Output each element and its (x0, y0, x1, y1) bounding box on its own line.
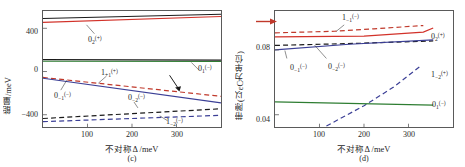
curve-c-1-minus2-minus (43, 115, 221, 121)
panel-d-ytick-008: 0.08 (238, 43, 270, 52)
panel-c-label-1-minus2-minus: 1−2(−) (166, 117, 183, 127)
curve-c-black-upper (43, 14, 221, 18)
leader-c-0-minus2-minus (134, 102, 138, 108)
panel-c-xtick-200: 200 (119, 130, 145, 139)
panel-d-xtick-200: 200 (351, 130, 377, 139)
panel-c-label-1-plus1-plus: 1+1(+) (101, 68, 118, 78)
curve-d-1-minus2-plus (326, 66, 420, 126)
panel-c-label-0-1-minus: 01(−) (198, 64, 212, 74)
panel-c-y-axis-label: 能量/meV (2, 36, 14, 114)
panel-d-label-0-minus1-minus: 0−1(−) (290, 63, 307, 73)
curve-d-1-minus1-minus (275, 26, 423, 33)
panel-d-label-0-1-minus: 01(−) (432, 100, 446, 110)
panel-c-label-0-2-plus: 02(+) (88, 35, 102, 45)
curve-c-0-2-plus (43, 16, 221, 22)
panel-c-plot-area (42, 10, 222, 128)
panel-c-xtick-100: 100 (74, 130, 100, 139)
curve-d-0-minus1-minus (275, 40, 433, 50)
panel-c-ytick-0: 0 (12, 65, 38, 74)
panel-c-ytick-400: 400 (12, 27, 38, 36)
panel-d-xtick-300: 300 (396, 130, 422, 139)
arrow-marker-c (170, 75, 181, 91)
panel-c-label-0-minus2-minus: 0−2(−) (128, 93, 145, 103)
panel-c: 能量/meV 400 0 −400 (0, 0, 232, 167)
leader-d-0-minus2-minus (315, 45, 327, 58)
panel-d-label-0-minus2-minus: 0−2(−) (328, 62, 345, 72)
panel-d-label-1-minus1-minus: 1−1(−) (342, 13, 359, 23)
panel-c-ytick-minus400: −400 (8, 110, 38, 119)
curve-c-0-minus2-minus (43, 109, 221, 119)
panel-d-y-axis-label: 带隙(以εC为单位) (234, 28, 246, 120)
panel-c-caption: (c) (102, 154, 162, 163)
panel-d-label-1-minus2-plus: 1−2(+) (431, 70, 448, 80)
panel-d-label-0-2-plus: 02(+) (431, 32, 445, 42)
panel-d-ytick-004: 0.04 (238, 115, 270, 124)
panel-c-x-axis-label: 不对称Δ /meV (62, 142, 202, 154)
curve-d-0-1-minus (275, 102, 433, 105)
panel-c-xtick-300: 300 (164, 130, 190, 139)
leader-c-0-2-plus (87, 25, 95, 34)
leader-d-0-minus1-minus (285, 51, 287, 59)
panel-c-curves (43, 11, 221, 128)
panel-d-xtick-100: 100 (306, 130, 332, 139)
curve-d-0-2-plus (275, 28, 433, 37)
panel-d-red-arrow-icon (256, 17, 278, 26)
panel-d: 带隙(以εC为单位) 0.08 0.04 (232, 0, 464, 167)
panel-d-x-axis-label: 不对称Δ /meV (294, 142, 434, 154)
panel-c-label-0-minus1-minus: 0−1(−) (54, 91, 71, 101)
figure-root: 能量/meV 400 0 −400 (0, 0, 465, 167)
panel-d-caption: (d) (334, 154, 394, 163)
